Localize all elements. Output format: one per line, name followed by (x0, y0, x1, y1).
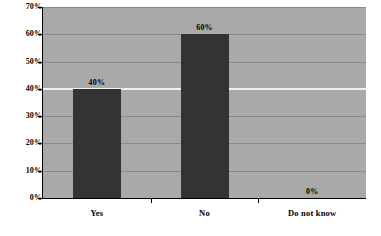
x-category-label-do-not-know: Do not know (257, 208, 367, 218)
value-label-no: 60% (175, 23, 235, 32)
plot-area (43, 7, 366, 198)
bar-yes (73, 89, 121, 198)
y-axis: 0%10%20%30%40%50%60%70% (0, 0, 42, 236)
y-tick-label-0: 0% (6, 193, 42, 202)
y-tick-label-10: 10% (6, 166, 42, 175)
x-category-label-yes: Yes (42, 208, 152, 218)
value-label-yes: 40% (67, 78, 127, 87)
x-tick-mark-2 (258, 199, 259, 203)
y-tick-label-70: 70% (6, 2, 42, 11)
gridline-70 (43, 7, 366, 8)
x-category-label-no: No (150, 208, 260, 218)
y-tick-label-30: 30% (6, 111, 42, 120)
bar-no (181, 34, 229, 198)
y-axis-line (42, 7, 43, 199)
y-tick-label-50: 50% (6, 57, 42, 66)
value-label-do-not-know: 0% (282, 187, 342, 196)
y-tick-label-40: 40% (6, 84, 42, 93)
x-axis-line (42, 198, 366, 199)
y-tick-label-20: 20% (6, 138, 42, 147)
bar-chart: 40%60%0% 0%10%20%30%40%50%60%70% YesNoDo… (0, 0, 381, 236)
x-tick-mark-1 (151, 199, 152, 203)
y-tick-label-60: 60% (6, 29, 42, 38)
